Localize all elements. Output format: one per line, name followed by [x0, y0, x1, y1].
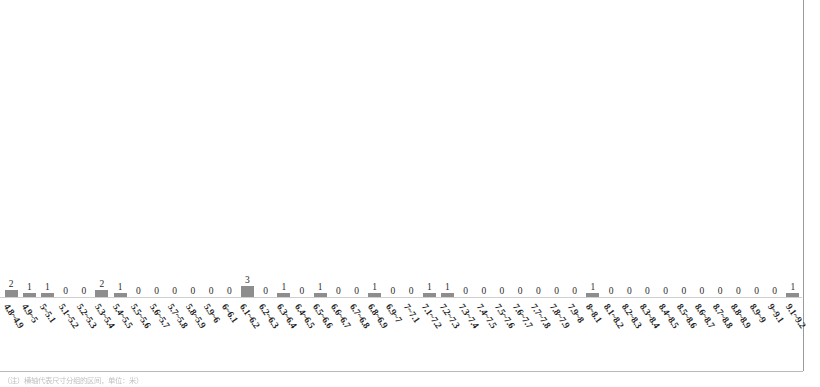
bar-value-label: 1 — [445, 282, 450, 292]
x-axis-tick-label: 5~5.1 — [38, 302, 58, 325]
histogram-bin: 3 — [238, 255, 256, 297]
document-page: 2110021000000301010010011000000010000000… — [0, 0, 820, 387]
histogram-bin: 0 — [620, 255, 638, 297]
bar-value-label: 0 — [227, 286, 232, 296]
histogram-bin: 2 — [2, 255, 20, 297]
x-axis-tick: 6.6~6.7 — [329, 298, 347, 350]
histogram-bin: 0 — [166, 255, 184, 297]
histogram-bin: 1 — [38, 255, 56, 297]
histogram-bin-inner: 0 — [384, 255, 402, 297]
x-axis-tick: 7.1~7.2 — [420, 298, 438, 350]
histogram-bin: 0 — [493, 255, 511, 297]
histogram-bin: 1 — [311, 255, 329, 297]
x-axis-tick: 7~7.1 — [402, 298, 420, 350]
histogram-bin-inner: 0 — [457, 255, 475, 297]
x-axis-tick: 7.2~7.3 — [438, 298, 456, 350]
histogram-bin: 0 — [202, 255, 220, 297]
histogram-bin: 1 — [20, 255, 38, 297]
histogram-bin-inner: 0 — [57, 255, 75, 297]
histogram-bin-inner: 0 — [729, 255, 747, 297]
bar-value-label: 0 — [500, 286, 505, 296]
histogram-bin: 1 — [784, 255, 802, 297]
histogram-bin-inner: 0 — [402, 255, 420, 297]
x-axis-tick: 9~9.1 — [766, 298, 784, 350]
histogram-bin: 0 — [402, 255, 420, 297]
x-axis-tick: 8.6~8.7 — [693, 298, 711, 350]
histogram-bin: 0 — [711, 255, 729, 297]
footer-divider — [0, 371, 803, 372]
histogram-bin-inner: 0 — [147, 255, 165, 297]
bar-value-label: 0 — [663, 286, 668, 296]
histogram-bar — [5, 290, 18, 297]
histogram-bin: 0 — [147, 255, 165, 297]
x-axis-tick: 7.9~8 — [566, 298, 584, 350]
bar-value-label: 0 — [63, 286, 68, 296]
histogram-bin-inner: 0 — [511, 255, 529, 297]
x-axis-tick: 5.8~5.9 — [184, 298, 202, 350]
histogram-bin-inner: 0 — [202, 255, 220, 297]
x-axis-tick: 7.7~7.8 — [529, 298, 547, 350]
bar-value-label: 0 — [209, 286, 214, 296]
histogram-bin: 0 — [457, 255, 475, 297]
histogram-bin: 0 — [511, 255, 529, 297]
bar-value-label: 0 — [136, 286, 141, 296]
histogram-bin-inner: 0 — [293, 255, 311, 297]
x-axis-tick: 9.1~9.2 — [784, 298, 802, 350]
histogram-bar — [241, 286, 254, 297]
histogram-bin-inner: 0 — [347, 255, 365, 297]
histogram-bin-inner: 0 — [329, 255, 347, 297]
histogram-bin-inner: 0 — [766, 255, 784, 297]
bar-value-label: 0 — [409, 286, 414, 296]
bar-value-label: 1 — [281, 282, 286, 292]
x-axis-tick: 5.5~5.6 — [129, 298, 147, 350]
x-axis-tick: 8~8.1 — [584, 298, 602, 350]
histogram-bin-inner: 3 — [238, 255, 256, 297]
bar-value-label: 0 — [81, 286, 86, 296]
histogram-bin: 1 — [420, 255, 438, 297]
bar-value-label: 1 — [318, 282, 323, 292]
histogram-bin: 1 — [275, 255, 293, 297]
x-axis-tick: 5.3~5.4 — [93, 298, 111, 350]
histogram-bin-inner: 0 — [566, 255, 584, 297]
histogram-bin-inner: 0 — [75, 255, 93, 297]
histogram-bin-inner: 1 — [20, 255, 38, 297]
histogram-bin-inner: 0 — [711, 255, 729, 297]
bar-value-label: 1 — [427, 282, 432, 292]
histogram-bin: 0 — [729, 255, 747, 297]
histogram-bin: 0 — [547, 255, 565, 297]
histogram-bin-inner: 1 — [311, 255, 329, 297]
histogram-bin-inner: 0 — [693, 255, 711, 297]
x-axis-tick: 7.8~7.9 — [547, 298, 565, 350]
histogram-bin: 1 — [584, 255, 602, 297]
histogram-bin-inner: 1 — [438, 255, 456, 297]
x-axis-tick: 5.7~5.8 — [166, 298, 184, 350]
x-axis-tick: 6.1~6.2 — [238, 298, 256, 350]
bar-value-label: 0 — [536, 286, 541, 296]
histogram-bin: 0 — [329, 255, 347, 297]
histogram-bin-inner: 1 — [366, 255, 384, 297]
x-axis-tick: 6~6.1 — [220, 298, 238, 350]
bar-value-label: 0 — [154, 286, 159, 296]
bar-value-label: 2 — [9, 279, 14, 289]
x-axis-tick: 8.1~8.2 — [602, 298, 620, 350]
bar-value-label: 0 — [754, 286, 759, 296]
histogram-bin: 0 — [57, 255, 75, 297]
x-axis-tick: 5.2~5.3 — [75, 298, 93, 350]
histogram-bin-inner: 0 — [129, 255, 147, 297]
histogram-bin-inner: 0 — [257, 255, 275, 297]
x-axis-tick: 7.3~7.4 — [457, 298, 475, 350]
histogram-bin: 0 — [766, 255, 784, 297]
x-axis-tick-label: 9.1~9.2 — [784, 302, 808, 330]
bar-value-label: 3 — [245, 275, 250, 285]
histogram-bin: 0 — [257, 255, 275, 297]
chart-plot-area: 2110021000000301010010011000000010000000… — [0, 255, 805, 297]
bar-value-label: 0 — [718, 286, 723, 296]
x-axis-tick: 8.5~8.6 — [675, 298, 693, 350]
x-axis-tick: 5.9~6 — [202, 298, 220, 350]
histogram-bin: 0 — [184, 255, 202, 297]
x-axis-tick: 6.8~6.9 — [366, 298, 384, 350]
histogram-bin: 2 — [93, 255, 111, 297]
histogram-bin: 0 — [747, 255, 765, 297]
histogram-bin: 0 — [693, 255, 711, 297]
histogram-bin: 0 — [675, 255, 693, 297]
